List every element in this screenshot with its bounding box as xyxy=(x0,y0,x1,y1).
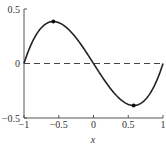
extremum-dot xyxy=(132,103,136,107)
x-tick-label: 0.5 xyxy=(122,119,135,130)
extremum-dot xyxy=(51,20,55,24)
ticks: −1−0.500.51−0.500.5 xyxy=(2,4,165,131)
series xyxy=(24,22,163,106)
x-tick-label: −1 xyxy=(19,119,30,130)
x-axis-label: x xyxy=(90,134,96,145)
x-tick-label: 0 xyxy=(91,119,96,130)
x-tick-label: −0.5 xyxy=(50,119,68,130)
x-tick-label: 1 xyxy=(161,119,166,130)
y-tick-label: 0 xyxy=(15,58,20,69)
y-tick-label: 0.5 xyxy=(8,4,21,15)
cubic-function-chart: −1−0.500.51−0.500.5 x xyxy=(0,0,165,148)
y-tick-label: −0.5 xyxy=(2,113,20,124)
